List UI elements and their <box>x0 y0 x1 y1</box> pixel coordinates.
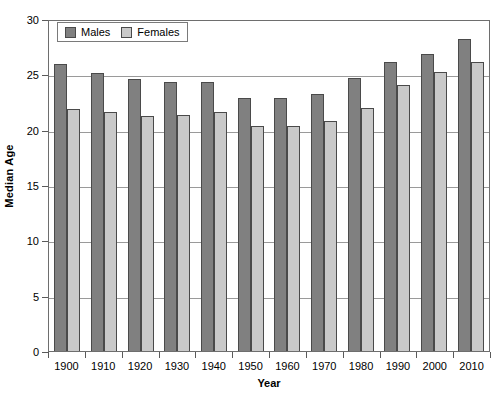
x-axis-tick-mark <box>232 352 233 358</box>
x-axis-tick-mark <box>490 352 491 358</box>
x-axis-tick-mark <box>453 352 454 358</box>
y-axis-tick-labels: 051015202530 <box>18 20 42 352</box>
bar-females-1960 <box>287 126 300 351</box>
y-axis-tick-mark <box>42 241 48 242</box>
bar-females-1990 <box>397 85 410 351</box>
bar-males-1920 <box>128 79 141 351</box>
y-axis-tick-label: 5 <box>33 291 39 303</box>
y-axis-tick-mark <box>42 297 48 298</box>
y-axis-tick-label: 10 <box>27 235 39 247</box>
x-axis-tick-label: 1910 <box>91 360 115 372</box>
bar-females-1980 <box>361 108 374 351</box>
x-axis-tick-mark <box>416 352 417 358</box>
y-axis-tick-label: 20 <box>27 125 39 137</box>
x-axis-tick-label: 1960 <box>275 360 299 372</box>
y-axis-tick-label: 30 <box>27 14 39 26</box>
y-axis-tick-mark <box>42 20 48 21</box>
x-axis-tick-mark <box>85 352 86 358</box>
x-axis-tick-mark <box>380 352 381 358</box>
bar-males-2010 <box>458 39 471 351</box>
x-axis-title: Year <box>48 377 490 389</box>
bar-males-1910 <box>91 73 104 351</box>
x-axis-tick-label: 2000 <box>423 360 447 372</box>
bar-group <box>159 21 196 351</box>
x-axis-tick-label: 1920 <box>128 360 152 372</box>
x-axis-tick-label: 1900 <box>54 360 78 372</box>
x-axis-tick-label: 1950 <box>238 360 262 372</box>
legend-label-females: Females <box>137 26 179 38</box>
y-axis-title-label: Median Age <box>3 144 15 207</box>
legend-item-males: Males <box>65 26 110 38</box>
y-axis-tick-mark <box>42 75 48 76</box>
legend-item-females: Females <box>121 26 179 38</box>
y-axis-tick-label: 25 <box>27 69 39 81</box>
bar-group <box>196 21 233 351</box>
y-axis-tick-mark <box>42 131 48 132</box>
x-axis-tick-mark <box>195 352 196 358</box>
y-axis-title: Median Age <box>0 0 18 352</box>
bar-females-1920 <box>141 116 154 351</box>
plot-area <box>48 20 490 352</box>
bar-group <box>86 21 123 351</box>
legend-swatch-females-icon <box>121 27 132 38</box>
x-axis-tick-label: 1930 <box>165 360 189 372</box>
bar-females-2000 <box>434 72 447 351</box>
bar-males-1970 <box>311 94 324 351</box>
bar-group <box>232 21 269 351</box>
y-axis-tick-label: 0 <box>33 346 39 358</box>
bar-group <box>452 21 489 351</box>
bar-group <box>122 21 159 351</box>
bar-group <box>379 21 416 351</box>
bar-females-2010 <box>471 62 484 351</box>
x-axis-tick-mark <box>343 352 344 358</box>
bar-males-1940 <box>201 82 214 351</box>
bar-males-1950 <box>238 98 251 351</box>
legend: Males Females <box>57 22 188 42</box>
y-axis-tick-label: 15 <box>27 180 39 192</box>
bar-males-1960 <box>274 98 287 351</box>
x-axis-tick-mark <box>122 352 123 358</box>
bar-females-1900 <box>67 109 80 351</box>
median-age-bar-chart: Median Age 051015202530 Year Males Femal… <box>0 0 498 395</box>
bar-males-1930 <box>164 82 177 351</box>
bar-males-1900 <box>54 64 67 351</box>
x-axis-tick-label: 1940 <box>202 360 226 372</box>
bar-group <box>342 21 379 351</box>
bars-layer <box>49 21 489 351</box>
x-axis-tick-mark <box>269 352 270 358</box>
legend-label-males: Males <box>81 26 110 38</box>
y-axis-tick-mark <box>42 186 48 187</box>
bar-males-2000 <box>421 54 434 351</box>
x-axis-tick-label: 1980 <box>349 360 373 372</box>
bar-group <box>269 21 306 351</box>
x-axis-tick-mark <box>306 352 307 358</box>
bar-females-1910 <box>104 112 117 351</box>
bar-females-1940 <box>214 112 227 351</box>
bar-group <box>416 21 453 351</box>
x-axis-tick-label: 1970 <box>312 360 336 372</box>
x-axis-tick-mark <box>48 352 49 358</box>
x-axis-tick-label: 1990 <box>386 360 410 372</box>
bar-group <box>49 21 86 351</box>
x-axis-tick-label: 2010 <box>459 360 483 372</box>
x-axis-tick-mark <box>159 352 160 358</box>
legend-swatch-males-icon <box>65 27 76 38</box>
bar-males-1990 <box>384 62 397 351</box>
bar-group <box>306 21 343 351</box>
bar-females-1930 <box>177 115 190 351</box>
bar-males-1980 <box>348 78 361 351</box>
bar-females-1970 <box>324 121 337 351</box>
bar-females-1950 <box>251 126 264 351</box>
